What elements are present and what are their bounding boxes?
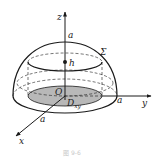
height-label: h [69,58,75,68]
height-point [63,60,67,64]
surface-label: Σ [99,47,107,57]
y-radius-label: a [117,95,122,105]
x-radius-label: a [40,114,45,124]
origin-label: O [55,87,63,97]
region-main: D [66,98,74,108]
region-sub: xy [74,102,81,110]
top-radius-label: a [68,30,73,40]
figure-caption: 图 9-6 [63,149,81,157]
hemisphere-diagram: z a Σ h O Dxy a y a x 图 9-6 [0,0,157,158]
z-axis-label: z [56,12,62,22]
x-axis-label: x [19,136,24,146]
y-axis-label: y [141,98,148,108]
